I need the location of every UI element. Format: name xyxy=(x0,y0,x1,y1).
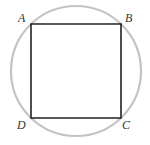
inscribed-square-diagram: A B D C xyxy=(0,0,150,145)
vertex-label-a: A xyxy=(17,11,26,25)
vertex-label-d: D xyxy=(16,118,26,132)
vertex-label-b: B xyxy=(125,11,133,25)
diagram-canvas: A B D C xyxy=(0,0,150,145)
vertex-label-c: C xyxy=(122,118,131,132)
square-abcd xyxy=(31,24,121,118)
